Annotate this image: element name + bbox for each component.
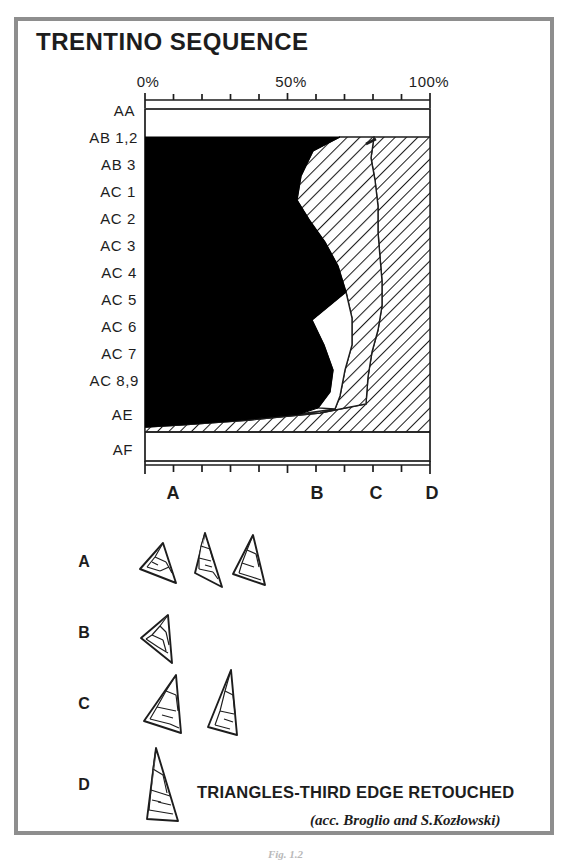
artifact-C-1	[144, 675, 181, 733]
y-label-AC2: AC 2	[100, 210, 136, 227]
y-label-AC7: AC 7	[101, 345, 137, 362]
sequence-chart: AA AB 1,2 AB 3 AC 1 AC 2 AC 3 AC 4 AC 5 …	[0, 0, 571, 520]
plate-row-label-B: B	[78, 624, 90, 641]
x-tick-0: 0%	[137, 73, 160, 90]
figure-number: Fig. 1.2	[0, 848, 571, 860]
y-label-AC3: AC 3	[100, 237, 136, 254]
x-tick-50: 50%	[275, 73, 307, 90]
y-label-AC5: AC 5	[101, 291, 137, 308]
plot-bands	[145, 137, 430, 432]
plate-row-label-A: A	[78, 553, 90, 570]
plate-row-labels: A B C D	[78, 553, 90, 793]
artifact-A-3	[233, 535, 265, 585]
artifact-D-1	[147, 748, 178, 821]
y-label-AC4: AC 4	[101, 264, 137, 281]
group-label-B: B	[311, 483, 324, 503]
bottom-axis-ruler	[145, 461, 430, 474]
group-label-D: D	[426, 483, 439, 503]
x-axis-tick-labels: 0% 50% 100%	[137, 73, 450, 90]
artifact-B-1	[141, 615, 172, 663]
artifact-C-2	[208, 670, 237, 735]
x-tick-100: 100%	[409, 73, 449, 90]
group-label-A: A	[167, 483, 180, 503]
top-axis-ruler	[145, 93, 430, 108]
chart-svg: AA AB 1,2 AB 3 AC 1 AC 2 AC 3 AC 4 AC 5 …	[0, 0, 571, 520]
y-label-AB12: AB 1,2	[89, 129, 138, 146]
y-label-AB3: AB 3	[101, 156, 136, 173]
y-label-AC6: AC 6	[101, 318, 137, 335]
group-legend: A B C D	[167, 483, 439, 503]
y-label-AE: AE	[112, 406, 133, 423]
plate-row-label-D: D	[78, 776, 90, 793]
artifact-A-2	[195, 533, 222, 587]
y-label-AC1: AC 1	[100, 183, 136, 200]
y-label-AF: AF	[113, 441, 133, 458]
artifact-A-1	[140, 543, 176, 583]
y-axis-labels: AA AB 1,2 AB 3 AC 1 AC 2 AC 3 AC 4 AC 5 …	[89, 102, 139, 458]
plate-row-label-C: C	[78, 695, 90, 712]
group-label-C: C	[370, 483, 383, 503]
y-label-AA: AA	[114, 102, 135, 119]
plate-caption: TRIANGLES-THIRD EDGE RETOUCHED	[197, 783, 514, 802]
attribution-text: (acc. Broglio and S.Kozłowski)	[310, 812, 500, 829]
figure-page: TRENTINO SEQUENCE AA AB 1,2 AB 3 AC 1	[0, 0, 571, 863]
y-label-AC89: AC 8,9	[90, 372, 139, 389]
